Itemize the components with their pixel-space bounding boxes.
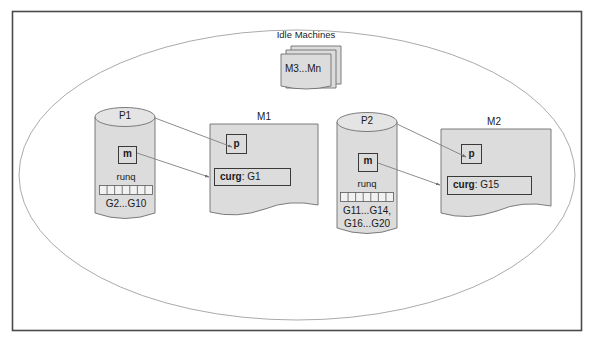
m1-curg-label: curg: G1	[220, 171, 261, 182]
p2-runq-cells	[341, 193, 394, 202]
m1-curg-key: curg	[220, 171, 242, 182]
machine-m2-shape	[441, 129, 551, 217]
processor-p1-label: P1	[119, 110, 131, 121]
m1-curg-value: G1	[247, 171, 260, 182]
p1-runq-cells	[100, 186, 153, 195]
diagram-canvas: Idle Machines M3...Mn P1 m runq G2...G10…	[0, 0, 594, 341]
m2-curg-key: curg	[453, 179, 475, 190]
p1-m-label: m	[123, 148, 132, 159]
p2-m-label: m	[364, 155, 373, 166]
processor-p2-label: P2	[361, 115, 373, 126]
scheduler-diagram	[0, 0, 594, 341]
idle-machines-title: Idle Machines	[277, 30, 336, 41]
idle-machines-card-label: M3...Mn	[285, 63, 321, 74]
m2-curg-label: curg: G15	[453, 179, 499, 190]
machine-m2-label: M2	[487, 116, 501, 127]
p1-runq-label: runq	[116, 172, 135, 183]
machine-m1-label: M1	[257, 111, 271, 122]
m2-curg-value: G15	[480, 179, 499, 190]
p2-runq-label: runq	[357, 179, 376, 190]
p1-queue-contents: G2...G10	[106, 198, 147, 209]
p2-queue-contents-line1: G11...G14,	[343, 205, 391, 216]
p2-queue-contents-line2: G16...G20	[344, 218, 390, 229]
m2-p-label: p	[468, 148, 474, 159]
m1-p-label: p	[233, 138, 239, 149]
